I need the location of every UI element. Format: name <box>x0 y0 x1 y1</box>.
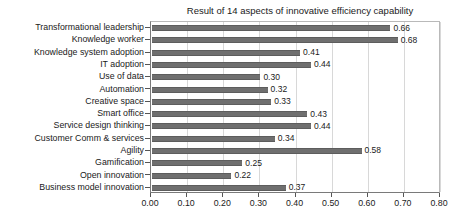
x-axis: 0.000.100.200.300.400.500.600.700.80 <box>150 193 440 217</box>
bar[interactable] <box>152 173 231 179</box>
bar-value-label: 0.43 <box>310 110 327 119</box>
bar-value-label: 0.68 <box>401 36 418 45</box>
category-label: Gamification <box>95 156 144 168</box>
bar-row[interactable]: 0.41 <box>152 47 439 59</box>
category-label: Creative space <box>85 95 144 107</box>
bar[interactable] <box>152 148 362 154</box>
bar-row[interactable]: 0.33 <box>152 96 439 108</box>
bar[interactable] <box>152 99 271 105</box>
gridline <box>440 22 441 192</box>
x-axis-tick-label: 0.50 <box>322 198 339 208</box>
bar-row[interactable]: 0.43 <box>152 108 439 120</box>
category-label: Service design thinking <box>54 119 144 131</box>
bar[interactable] <box>152 37 398 43</box>
bar[interactable] <box>152 62 311 68</box>
category-axis-labels: Transformational leadershipKnowledge wor… <box>0 21 150 193</box>
category-label: Transformational leadership <box>35 21 144 33</box>
bar-row[interactable]: 0.25 <box>152 157 439 169</box>
bar[interactable] <box>152 111 307 117</box>
x-axis-tick-label: 0.70 <box>394 198 411 208</box>
bar[interactable] <box>152 123 311 129</box>
bar-row[interactable]: 0.30 <box>152 71 439 83</box>
bar-value-label: 0.30 <box>263 73 280 82</box>
bar-chart: Result of 14 aspects of innovative effic… <box>0 0 457 222</box>
x-axis-tick-label: 0.60 <box>358 198 375 208</box>
bar-value-label: 0.25 <box>245 159 262 168</box>
bar-row[interactable]: 0.44 <box>152 59 439 71</box>
bar-value-label: 0.58 <box>365 146 382 155</box>
category-label: Knowledge system adoption <box>34 46 144 58</box>
x-axis-tick <box>186 193 187 197</box>
category-label: Open innovation <box>80 168 144 180</box>
x-axis-tick <box>222 193 223 197</box>
category-label: Knowledge worker <box>72 33 144 45</box>
category-label: Customer Comm & services <box>35 132 145 144</box>
bar-row[interactable]: 0.34 <box>152 133 439 145</box>
bar[interactable] <box>152 25 390 31</box>
x-axis-tick <box>331 193 332 197</box>
x-axis-tick-label: 0.40 <box>286 198 303 208</box>
bar-value-label: 0.66 <box>393 24 410 33</box>
bar-row[interactable]: 0.66 <box>152 22 439 34</box>
category-label: Business model innovation <box>39 181 144 193</box>
bar-row[interactable]: 0.58 <box>152 145 439 157</box>
bar-value-label: 0.32 <box>271 85 288 94</box>
x-axis-tick-label: 0.80 <box>430 198 447 208</box>
x-axis-tick-label: 0.30 <box>250 198 267 208</box>
category-label: Automation <box>100 82 145 94</box>
bar-value-label: 0.44 <box>314 60 331 69</box>
bar-value-label: 0.34 <box>278 134 295 143</box>
category-label: Agility <box>121 144 144 156</box>
x-axis-tick <box>295 193 296 197</box>
bar-value-label: 0.22 <box>234 171 251 180</box>
x-axis-tick <box>258 193 259 197</box>
chart-title: Result of 14 aspects of innovative effic… <box>150 5 450 17</box>
bar-value-label: 0.41 <box>303 48 320 57</box>
bar[interactable] <box>152 87 268 93</box>
bar[interactable] <box>152 185 286 191</box>
plot-area: 0.660.680.410.440.300.320.330.430.440.34… <box>150 21 440 193</box>
bars-layer: 0.660.680.410.440.300.320.330.430.440.34… <box>152 22 439 192</box>
bar-row[interactable]: 0.68 <box>152 34 439 46</box>
bar-row[interactable]: 0.32 <box>152 83 439 95</box>
x-axis-tick-label: 0.10 <box>178 198 195 208</box>
x-axis-tick <box>403 193 404 197</box>
x-axis-tick <box>439 193 440 197</box>
bar[interactable] <box>152 160 242 166</box>
category-label: Smart office <box>97 107 144 119</box>
x-axis-tick-label: 0.00 <box>141 198 158 208</box>
bar-row[interactable]: 0.44 <box>152 120 439 132</box>
bar-row[interactable]: 0.22 <box>152 169 439 181</box>
bar[interactable] <box>152 50 300 56</box>
x-axis-tick-label: 0.20 <box>214 198 231 208</box>
bar[interactable] <box>152 136 275 142</box>
x-axis-tick <box>150 193 151 197</box>
bar-value-label: 0.33 <box>274 97 291 106</box>
bar-value-label: 0.37 <box>289 183 306 192</box>
category-label: Use of data <box>99 70 144 82</box>
bar-value-label: 0.44 <box>314 122 331 131</box>
bar[interactable] <box>152 74 260 80</box>
category-label: IT adoption <box>100 58 144 70</box>
x-axis-tick <box>367 193 368 197</box>
